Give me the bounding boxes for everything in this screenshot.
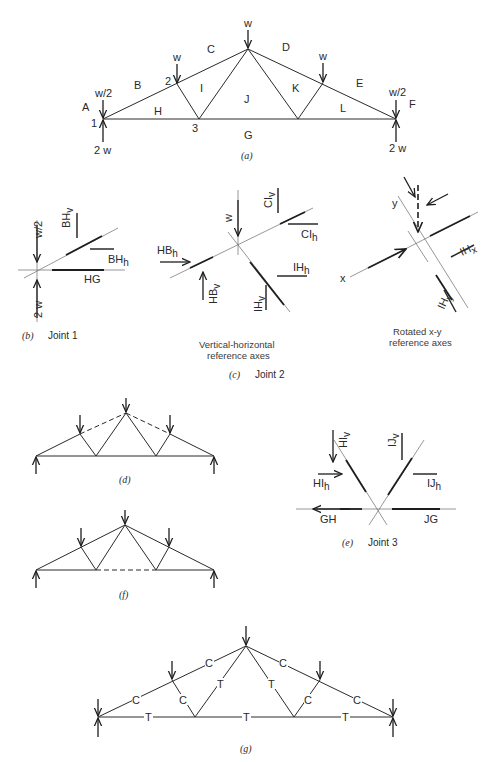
web-member <box>177 84 199 119</box>
y-axis-label: y <box>392 197 398 209</box>
truss-diagram-d: (d) <box>36 398 214 486</box>
region-label-E: E <box>356 77 363 89</box>
reaction-label-2w: 2 w <box>32 301 44 318</box>
force-label-bottom-right: T <box>342 711 349 723</box>
label-IHx: IHx <box>458 240 479 260</box>
force-label-web-left-long: T <box>217 678 224 690</box>
force-label-top-right-outer: C <box>353 694 361 706</box>
web-member <box>125 525 156 570</box>
label-BHv: BHv <box>60 208 75 228</box>
caption-g: (g) <box>240 743 252 755</box>
force-label-top-right-inner: C <box>279 657 287 669</box>
load-label-w: w <box>222 214 234 223</box>
removed-chord-right <box>126 413 170 434</box>
member-CI-thick <box>430 216 470 236</box>
vh-axes-title-line2: reference axes <box>207 350 270 361</box>
caption-b-letter: (b) <box>22 330 34 342</box>
caption-e-letter: (e) <box>342 537 354 549</box>
web-member <box>199 49 248 119</box>
label-HG: HG <box>84 273 101 285</box>
caption-e-text: Joint 3 <box>368 537 398 548</box>
label-IHh: IHh <box>293 261 310 276</box>
web-member <box>248 49 298 119</box>
reaction-label-left: 2 w <box>94 144 111 156</box>
label-IJh: IJh <box>427 477 441 492</box>
load-label-left-support: w/2 <box>94 87 112 99</box>
joint-label-2: 2 <box>165 75 171 87</box>
member-IJ-thick <box>388 458 412 495</box>
load-label-apex: w <box>243 17 252 29</box>
force-label-web-right-short: C <box>304 694 312 706</box>
x-axis-label: x <box>340 272 346 284</box>
web-member <box>96 525 125 570</box>
load-label-right-support: w/2 <box>388 86 406 98</box>
member-HB-thick <box>190 257 213 268</box>
member-force-labels: C C C C C T T C T T T <box>132 657 362 723</box>
region-label-G: G <box>244 129 253 141</box>
component-arrow-x <box>427 194 448 205</box>
web-member <box>81 547 96 570</box>
force-label-top-left-outer: C <box>132 694 140 706</box>
joint-1-diagram-b: w/2 2 w BHv BHh HG (b) Joint 1 <box>18 208 129 342</box>
web-member <box>156 547 169 570</box>
vh-axes-title-line1: Vertical-horizontal <box>199 339 275 350</box>
top-chord-right-end <box>170 434 214 456</box>
load-label-w2: w/2 <box>32 221 44 239</box>
caption-b-text: Joint 1 <box>48 330 78 341</box>
region-label-J: J <box>244 93 250 105</box>
member-HI-thick <box>346 460 366 492</box>
region-label-A: A <box>82 101 90 113</box>
truss-diagram-a: w w w w/2 w/2 2 w 2 w A B C D E F G H I … <box>82 17 416 162</box>
caption-a: (a) <box>241 150 253 162</box>
rotated-axes-title-line2: reference axes <box>389 337 452 348</box>
caption-d: (d) <box>119 474 131 486</box>
component-arrow-y <box>404 177 415 197</box>
truss-diagram-g: C C C C C T T C T T T (g) <box>98 626 393 755</box>
force-label-bottom-mid: T <box>243 711 250 723</box>
member-CI-thick <box>280 212 305 224</box>
region-label-B: B <box>134 79 141 91</box>
force-label-bottom-left: T <box>145 711 152 723</box>
label-CIh: CIh <box>301 228 318 243</box>
caption-f: (f) <box>119 589 129 601</box>
truss-analysis-figure: w w w w/2 w/2 2 w 2 w A B C D E F G H I … <box>0 0 496 762</box>
web-member <box>126 413 156 456</box>
web-member <box>298 83 323 119</box>
label-JG: JG <box>424 513 438 525</box>
web-member <box>156 434 170 456</box>
load-label-node2: w <box>172 51 181 63</box>
joint-2-diagram-rotated: x y IHx IHy Rotated x-y reference axes <box>340 177 479 348</box>
force-label-web-left-short: C <box>179 694 187 706</box>
label-HBh: HBh <box>157 244 178 259</box>
label-IHv: IHv <box>252 296 267 312</box>
force-arrow-HB-x <box>368 249 406 268</box>
label-GH: GH <box>320 513 337 525</box>
load-label-right-node: w <box>318 50 327 62</box>
label-HIh: HIh <box>313 477 330 492</box>
reaction-label-right: 2 w <box>389 142 406 154</box>
caption-c-text: Joint 2 <box>255 369 285 380</box>
region-label-H: H <box>154 105 162 117</box>
region-label-L: L <box>340 102 346 114</box>
member-IH-axis-short <box>408 231 428 262</box>
top-chord-left-end <box>36 434 80 456</box>
caption-c-letter: (c) <box>229 369 241 381</box>
label-BHh: BHh <box>108 253 129 268</box>
force-label-top-left-inner: C <box>205 657 213 669</box>
region-label-K: K <box>292 82 300 94</box>
region-label-C: C <box>207 43 215 55</box>
label-HIv: HIv <box>337 432 352 448</box>
region-label-I: I <box>200 82 203 94</box>
web-member <box>80 434 96 456</box>
member-BH-thick <box>66 236 102 255</box>
label-HBv: HBv <box>207 284 222 304</box>
rotated-axes-title-line1: Rotated x-y <box>393 326 442 337</box>
joint-label-3: 3 <box>192 122 198 134</box>
region-label-F: F <box>409 98 416 110</box>
label-IHy: IHy <box>435 291 455 312</box>
label-IJv: IJv <box>386 433 401 447</box>
joint-2-diagram-vh: w HBh HBv CIv CIh IHh IHv Vertical-horiz… <box>157 188 318 381</box>
joint-label-1: 1 <box>91 117 97 129</box>
joint-3-diagram-e: HIv IJv HIh IJh GH JG (e) Joint 3 <box>296 430 456 549</box>
force-label-web-right-long: T <box>268 678 275 690</box>
